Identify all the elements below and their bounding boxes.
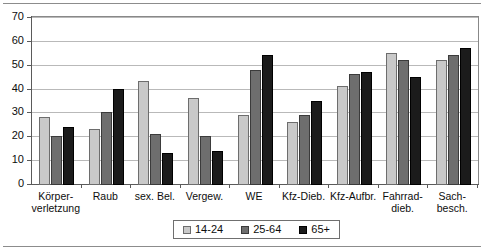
y-tick-label-wrap: 60 xyxy=(0,35,24,46)
y-tick-label-wrap: 20 xyxy=(0,130,24,141)
legend-item: 14-24 xyxy=(183,224,223,235)
bar xyxy=(138,81,149,185)
y-tick-label: 70 xyxy=(0,11,24,22)
legend-item: 65+ xyxy=(299,224,330,235)
y-tick-label-wrap: 40 xyxy=(0,83,24,94)
y-tick-label-wrap: 10 xyxy=(0,154,24,165)
bar xyxy=(63,127,74,185)
bar xyxy=(349,74,360,185)
bar xyxy=(337,86,348,185)
bar xyxy=(436,60,447,185)
category-label: Raub xyxy=(81,190,131,202)
category-label: Vergew. xyxy=(180,190,230,202)
y-tick-label: 60 xyxy=(0,35,24,46)
legend-item: 25-64 xyxy=(241,224,281,235)
bar xyxy=(101,112,112,185)
legend-label: 65+ xyxy=(311,224,330,235)
bottom-rule xyxy=(3,246,481,247)
legend-swatch-icon xyxy=(241,226,249,234)
bar xyxy=(212,151,223,185)
y-tick-label-wrap: 50 xyxy=(0,59,24,70)
y-tick-label: 10 xyxy=(0,154,24,165)
y-tick-label: 50 xyxy=(0,59,24,70)
legend-label: 25-64 xyxy=(253,224,281,235)
y-tick-label: 0 xyxy=(0,178,24,189)
y-tick-label: 20 xyxy=(0,130,24,141)
bar xyxy=(398,60,409,185)
legend-label: 14-24 xyxy=(195,224,223,235)
bar xyxy=(188,98,199,185)
bar xyxy=(113,89,124,185)
category-label: Sach- besch. xyxy=(427,190,477,214)
bar xyxy=(262,55,273,185)
bar xyxy=(287,122,298,185)
category-label: Fahrrad- dieb. xyxy=(378,190,428,214)
bar xyxy=(460,48,471,185)
category-label: WE xyxy=(229,190,279,202)
bar xyxy=(51,136,62,185)
category-label: sex. Bel. xyxy=(130,190,180,202)
category-label: Kfz-Dieb. xyxy=(279,190,329,202)
legend-swatch-icon xyxy=(299,226,307,234)
bar xyxy=(150,134,161,185)
bar xyxy=(386,53,397,185)
bar xyxy=(238,115,249,185)
top-rule xyxy=(3,3,481,4)
bar xyxy=(89,129,100,185)
bar xyxy=(311,101,322,186)
bar-chart: 010203040506070 Körper- verletzungRaubse… xyxy=(0,0,484,251)
bar xyxy=(361,72,372,185)
y-tick-label-wrap: 70 xyxy=(0,11,24,22)
y-tick-label-wrap: 0 xyxy=(0,178,24,189)
category-label: Kfz-Aufbr. xyxy=(328,190,378,202)
bar xyxy=(162,153,173,185)
y-tick-label-wrap: 30 xyxy=(0,106,24,117)
bar xyxy=(299,115,310,185)
bar xyxy=(39,117,50,185)
y-tick-label: 40 xyxy=(0,83,24,94)
category-label: Körper- verletzung xyxy=(31,190,81,214)
bar xyxy=(200,136,211,185)
bar xyxy=(250,70,261,186)
bar xyxy=(448,55,459,185)
bar xyxy=(410,77,421,185)
chart-legend: 14-2425-6465+ xyxy=(173,220,340,239)
legend-swatch-icon xyxy=(183,226,191,234)
bars-layer xyxy=(32,16,478,185)
y-tick-label: 30 xyxy=(0,106,24,117)
